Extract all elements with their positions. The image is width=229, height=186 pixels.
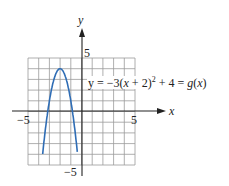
y-tick-neg5: −5 [64, 166, 77, 178]
y-axis-arrow-icon [79, 28, 85, 37]
y-axis-label: y [78, 14, 83, 26]
x-tick-5: 5 [131, 114, 137, 126]
x-axis-label: x [169, 105, 174, 117]
y-tick-5: 5 [84, 47, 90, 59]
equation-label: y = −3(x + 2)2 + 4 = g(x) [87, 76, 208, 89]
chart-canvas [0, 0, 229, 186]
x-axis-arrow-icon [157, 108, 166, 114]
x-tick-neg5: −5 [17, 114, 30, 126]
